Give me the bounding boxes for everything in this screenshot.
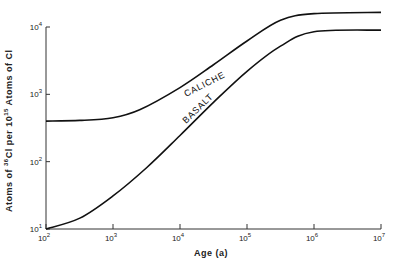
curves (46, 12, 381, 229)
x-tick-label: 107 (373, 232, 386, 243)
caliche-curve (46, 12, 381, 121)
y-tick-label: 102 (30, 156, 43, 167)
x-tick-label: 103 (105, 232, 118, 243)
x-axis-title: Age (a) (194, 248, 228, 258)
x-tick-label: 102 (38, 232, 51, 243)
x-tick-label: 106 (306, 232, 319, 243)
y-tick-label: 103 (30, 88, 43, 99)
x-tick-label: 105 (239, 232, 252, 243)
basalt-curve (46, 30, 381, 229)
chart: 101102103104102103104105106107 CALICHE B… (0, 0, 396, 269)
y-axis-title: Atoms of 36Cl per 1015 Atoms of Cl (3, 49, 14, 212)
y-tick-label: 104 (30, 21, 43, 32)
x-tick-label: 104 (172, 232, 185, 243)
axes: 101102103104102103104105106107 (30, 21, 386, 243)
y-tick-label: 101 (30, 223, 43, 234)
